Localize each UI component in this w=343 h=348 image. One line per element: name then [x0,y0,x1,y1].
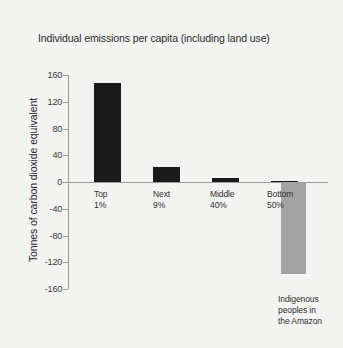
y-tick-mark-neg120 [63,262,68,263]
category-label-bottom-50pct: Bottom 50% [267,189,293,210]
y-tick-label-40: 40 [32,150,62,160]
category-line: Top [94,189,107,200]
category-line: 40% [210,200,234,211]
y-tick-mark-40 [63,155,68,156]
category-label-next-9pct: Next 9% [153,189,170,210]
y-tick-label-neg40: -40 [32,204,62,214]
category-line: Next [153,189,170,200]
bar-top-1pct [94,83,121,182]
category-line: 50% [267,200,293,211]
category-line: 9% [153,200,170,211]
bar-middle-40pct [212,178,239,182]
category-line: peoples in [278,305,342,316]
y-tick-label-80: 80 [32,124,62,134]
y-tick-mark-0 [63,182,68,183]
y-tick-mark-neg160 [63,289,68,290]
y-tick-label-120: 120 [32,97,62,107]
y-tick-label-neg120: -120 [32,257,62,267]
bar-next-9pct [153,167,180,182]
y-tick-mark-160 [63,75,68,76]
y-tick-label-0: 0 [32,177,62,187]
category-label-indigenous-amazon: Indigenous peoples in the Amazon [278,294,342,327]
y-tick-mark-neg40 [63,209,68,210]
y-tick-label-160: 160 [32,70,62,80]
category-line: 1% [94,200,107,211]
category-line: Indigenous [278,294,342,305]
y-tick-mark-neg80 [63,236,68,237]
category-line: Bottom [267,189,293,200]
chart-figure: Individual emissions per capita (includi… [0,0,343,348]
chart-card: Individual emissions per capita (includi… [6,6,337,342]
category-line: Middle [210,189,234,200]
y-tick-mark-120 [63,102,68,103]
category-label-middle-40pct: Middle 40% [210,189,234,210]
chart-title: Individual emissions per capita (includi… [38,32,328,45]
category-label-top-1pct: Top 1% [94,189,107,210]
y-tick-mark-80 [63,129,68,130]
y-tick-label-neg80: -80 [32,231,62,241]
y-tick-label-neg160: -160 [32,284,62,294]
category-line: the Amazon [278,316,342,327]
plot-area: 160 120 80 40 0 -40 -80 -120 -160 [68,75,328,289]
